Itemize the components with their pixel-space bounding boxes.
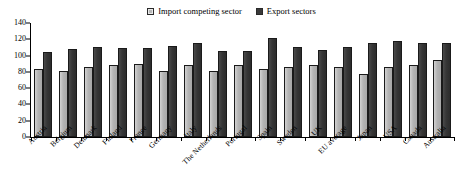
x-axis-label-austria: Austria: [27, 124, 49, 146]
x-label-slot: Denmark: [81, 122, 106, 195]
x-axis-category-labels: AustriaBelgiumDenmarkFinlandFranceGerman…: [31, 122, 455, 195]
bar-group: [355, 23, 380, 137]
legend-swatch-icon-import-competing-sector: [147, 8, 154, 15]
bar-chart: Import competing sector Export sectors 0…: [0, 0, 463, 195]
bar-group: [255, 23, 280, 137]
bar-group: [56, 23, 81, 137]
bar-series-container: [31, 23, 455, 137]
x-axis-label-spain: Spain: [255, 124, 273, 142]
chart-legend: Import competing sector Export sectors: [0, 3, 463, 19]
bar-group: [380, 23, 405, 137]
bar-group: [131, 23, 156, 137]
y-tick-label: 140: [14, 19, 26, 27]
legend-label-import-competing-sector: Import competing sector: [158, 7, 242, 16]
x-axis-label-canada: Canada: [401, 124, 423, 146]
bar-group: [231, 23, 256, 137]
bar-group: [181, 23, 206, 137]
x-label-slot: Japan: [355, 122, 380, 195]
bar-group: [206, 23, 231, 137]
y-axis-tick-labels: 020406080100120140: [0, 20, 26, 138]
bar-group: [81, 23, 106, 137]
bar-group: [430, 23, 455, 137]
bar-group: [280, 23, 305, 137]
x-axis-label-usa: USA: [382, 124, 398, 140]
x-axis-label-uk: UK: [310, 124, 323, 137]
bar-group: [405, 23, 430, 137]
y-tick-label: 40: [18, 100, 26, 108]
x-label-slot: The Netherlands: [206, 122, 231, 195]
bar-group: [305, 23, 330, 137]
legend-entry-import-competing-sector: Import competing sector: [147, 7, 242, 16]
x-label-slot: Sweden: [280, 122, 305, 195]
x-axis-label-france: France: [128, 124, 148, 144]
x-axis-label-japan: Japan: [355, 124, 373, 142]
x-label-slot: Portugal: [231, 122, 256, 195]
x-label-slot: Germany: [156, 122, 181, 195]
x-label-slot: Belgium: [56, 122, 81, 195]
x-label-slot: EU average: [330, 122, 355, 195]
x-label-slot: Canada: [405, 122, 430, 195]
bar-group: [156, 23, 181, 137]
bar-group: [330, 23, 355, 137]
y-tick-label: 100: [14, 52, 26, 60]
legend-swatch-icon-export-sectors: [256, 8, 263, 15]
bar-group: [106, 23, 131, 137]
y-tick-label: 120: [14, 35, 26, 43]
x-label-slot: USA: [380, 122, 405, 195]
legend-label-export-sectors: Export sectors: [267, 7, 316, 16]
y-tick-label: 60: [18, 84, 26, 92]
x-label-slot: UK: [305, 122, 330, 195]
y-tick-label: 80: [18, 68, 26, 76]
x-label-slot: Finland: [106, 122, 131, 195]
x-label-slot: Australia: [430, 122, 455, 195]
y-tick-label: 20: [18, 117, 26, 125]
legend-entry-export-sectors: Export sectors: [256, 7, 316, 16]
x-label-slot: France: [131, 122, 156, 195]
bar-group: [31, 23, 56, 137]
x-axis-label-italy: Italy: [183, 124, 199, 140]
x-label-slot: Spain: [255, 122, 280, 195]
x-label-slot: Austria: [31, 122, 56, 195]
